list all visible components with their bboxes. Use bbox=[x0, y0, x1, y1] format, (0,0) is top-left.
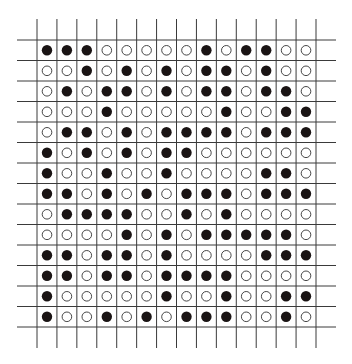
filled-circle-icon bbox=[241, 45, 251, 55]
empty-circle-icon bbox=[162, 210, 172, 220]
empty-circle-icon bbox=[142, 169, 152, 179]
filled-circle-icon bbox=[221, 291, 231, 301]
empty-circle-icon bbox=[142, 210, 152, 220]
filled-circle-icon bbox=[281, 127, 291, 137]
filled-circle-icon bbox=[42, 271, 52, 281]
filled-circle-icon bbox=[221, 107, 231, 117]
filled-circle-icon bbox=[221, 209, 231, 219]
empty-circle-icon bbox=[301, 66, 311, 76]
empty-circle-icon bbox=[182, 230, 192, 240]
filled-circle-icon bbox=[221, 86, 231, 96]
filled-circle-icon bbox=[161, 86, 171, 96]
filled-circle-icon bbox=[161, 230, 171, 240]
empty-circle-icon bbox=[202, 251, 212, 261]
filled-circle-icon bbox=[281, 312, 291, 322]
filled-circle-icon bbox=[62, 209, 72, 219]
empty-circle-icon bbox=[82, 292, 92, 302]
empty-circle-icon bbox=[122, 46, 132, 56]
filled-circle-icon bbox=[281, 168, 291, 178]
filled-circle-icon bbox=[301, 291, 311, 301]
filled-circle-icon bbox=[161, 291, 171, 301]
filled-circle-icon bbox=[261, 189, 271, 199]
empty-circle-icon bbox=[182, 66, 192, 76]
filled-circle-icon bbox=[141, 312, 151, 322]
empty-circle-icon bbox=[241, 292, 251, 302]
empty-circle-icon bbox=[142, 292, 152, 302]
empty-circle-icon bbox=[202, 210, 212, 220]
filled-circle-icon bbox=[181, 189, 191, 199]
empty-circle-icon bbox=[102, 46, 112, 56]
empty-circle-icon bbox=[281, 210, 291, 220]
filled-circle-icon bbox=[281, 291, 291, 301]
empty-circle-icon bbox=[182, 46, 192, 56]
empty-circle-icon bbox=[182, 87, 192, 97]
filled-circle-icon bbox=[82, 127, 92, 137]
empty-circle-icon bbox=[182, 107, 192, 117]
filled-circle-icon bbox=[221, 230, 231, 240]
empty-circle-icon bbox=[202, 292, 212, 302]
filled-circle-icon bbox=[261, 127, 271, 137]
filled-circle-icon bbox=[201, 271, 211, 281]
filled-circle-icon bbox=[141, 189, 151, 199]
empty-circle-icon bbox=[42, 210, 52, 220]
filled-circle-icon bbox=[42, 45, 52, 55]
filled-circle-icon bbox=[281, 107, 291, 117]
empty-circle-icon bbox=[102, 292, 112, 302]
empty-circle-icon bbox=[301, 210, 311, 220]
empty-circle-icon bbox=[62, 66, 72, 76]
filled-circle-icon bbox=[122, 148, 132, 158]
filled-circle-icon bbox=[102, 271, 112, 281]
empty-circle-icon bbox=[261, 271, 271, 281]
filled-circle-icon bbox=[201, 66, 211, 76]
empty-circle-icon bbox=[82, 230, 92, 240]
empty-circle-icon bbox=[82, 251, 92, 261]
empty-circle-icon bbox=[222, 251, 232, 261]
filled-circle-icon bbox=[261, 230, 271, 240]
filled-circle-icon bbox=[122, 230, 132, 240]
filled-circle-icon bbox=[122, 86, 132, 96]
empty-circle-icon bbox=[261, 312, 271, 322]
empty-circle-icon bbox=[281, 271, 291, 281]
empty-circle-icon bbox=[301, 312, 311, 322]
empty-circle-icon bbox=[142, 46, 152, 56]
empty-circle-icon bbox=[62, 292, 72, 302]
empty-circle-icon bbox=[122, 107, 132, 117]
empty-circle-icon bbox=[182, 251, 192, 261]
empty-circle-icon bbox=[102, 230, 112, 240]
empty-circle-icon bbox=[241, 66, 251, 76]
filled-circle-icon bbox=[281, 250, 291, 260]
empty-circle-icon bbox=[241, 148, 251, 158]
filled-circle-icon bbox=[241, 230, 251, 240]
filled-circle-icon bbox=[281, 230, 291, 240]
empty-circle-icon bbox=[62, 169, 72, 179]
filled-circle-icon bbox=[102, 107, 112, 117]
empty-circle-icon bbox=[281, 148, 291, 158]
filled-circle-icon bbox=[181, 209, 191, 219]
empty-circle-icon bbox=[241, 169, 251, 179]
filled-circle-icon bbox=[181, 271, 191, 281]
empty-circle-icon bbox=[301, 46, 311, 56]
empty-circle-icon bbox=[142, 251, 152, 261]
empty-circle-icon bbox=[142, 128, 152, 138]
filled-circle-icon bbox=[261, 86, 271, 96]
empty-circle-icon bbox=[241, 251, 251, 261]
filled-circle-icon bbox=[122, 127, 132, 137]
filled-circle-icon bbox=[82, 148, 92, 158]
filled-circle-icon bbox=[281, 86, 291, 96]
empty-circle-icon bbox=[142, 271, 152, 281]
empty-circle-icon bbox=[62, 107, 72, 117]
empty-circle-icon bbox=[222, 148, 232, 158]
empty-circle-icon bbox=[42, 87, 52, 97]
filled-circle-icon bbox=[161, 168, 171, 178]
filled-circle-icon bbox=[201, 45, 211, 55]
filled-circle-icon bbox=[42, 189, 52, 199]
empty-circle-icon bbox=[142, 148, 152, 158]
filled-circle-icon bbox=[221, 312, 231, 322]
empty-circle-icon bbox=[82, 87, 92, 97]
empty-circle-icon bbox=[202, 148, 212, 158]
filled-circle-icon bbox=[221, 127, 231, 137]
filled-circle-icon bbox=[301, 250, 311, 260]
empty-circle-icon bbox=[122, 169, 132, 179]
filled-circle-icon bbox=[281, 189, 291, 199]
filled-circle-icon bbox=[62, 127, 72, 137]
